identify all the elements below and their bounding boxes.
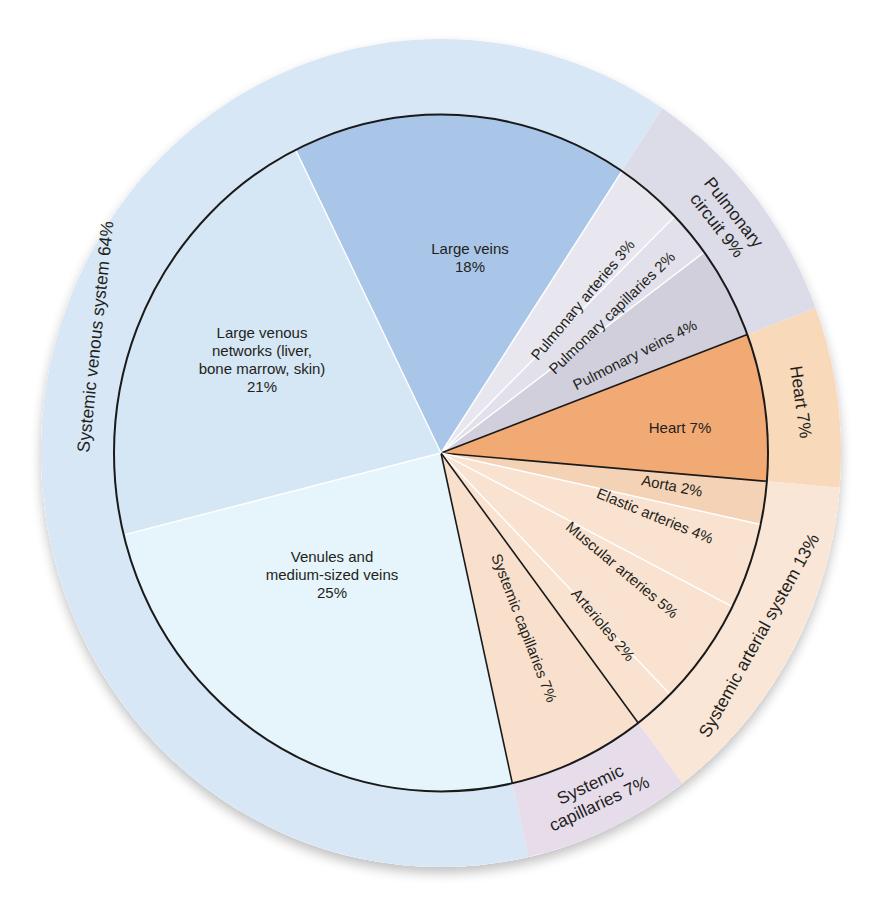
slice-label-line: bone marrow, skin): [199, 360, 326, 377]
slice-label-heart: Heart 7%: [649, 419, 712, 436]
slice-label-line: Large veins: [431, 240, 509, 257]
slice-label-line: Large venous: [217, 324, 308, 341]
slice-label-line: Heart 7%: [649, 419, 712, 436]
slice-label-line: 21%: [247, 378, 277, 395]
inner-pie: [114, 115, 768, 792]
slice-label-line: 18%: [455, 258, 485, 275]
pie-chart: Large veins18%Pulmonary arteries 3%Pulmo…: [0, 0, 883, 912]
slice-label-line: networks (liver,: [212, 342, 312, 359]
slice-label-line: medium-sized veins: [266, 566, 399, 583]
slice-label-line: Venules and: [291, 548, 374, 565]
slice-label-line: 25%: [317, 584, 347, 601]
